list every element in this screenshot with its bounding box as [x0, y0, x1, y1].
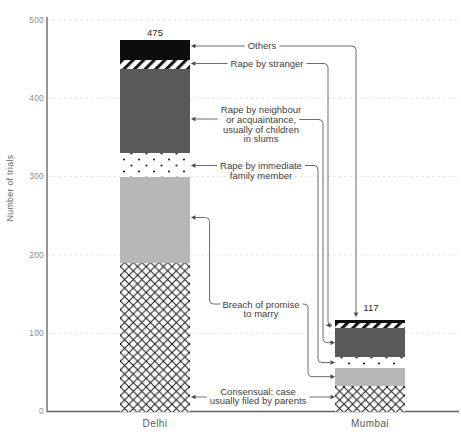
bar-segment-delhi-consensual [120, 263, 190, 412]
bar-segment-mumbai-consensual [335, 386, 405, 412]
delhi-total-label: 475 [147, 27, 163, 38]
bar-segment-mumbai-neighbour [335, 328, 405, 358]
y-tick-300: 300 [29, 171, 44, 181]
leader-line [305, 166, 331, 363]
rape-trials-stacked-bar-chart: 0100200300400500 OthersRape by strangerR… [0, 0, 461, 437]
bar-segment-mumbai-others [335, 320, 405, 323]
y-tick-500: 500 [29, 15, 44, 25]
leader-line [303, 304, 331, 377]
annotation-rape-by-immediate-family-line-2: family member [230, 170, 292, 181]
bar-segment-delhi-stranger [120, 60, 190, 69]
x-category-delhi: Delhi [143, 418, 168, 429]
stacked-bar-chart-svg: 0100200300400500 OthersRape by strangerR… [0, 0, 461, 437]
bar-segment-delhi-immediate-family [120, 153, 190, 176]
y-tick-labels: 0100200300400500 [29, 15, 44, 417]
leader-line [306, 64, 332, 326]
annotation-rape-by-stranger-line-1: Rape by stranger [231, 58, 304, 69]
y-tick-200: 200 [29, 250, 44, 260]
annotation-consensual-line-2: usually filed by parents [210, 395, 307, 406]
mumbai-total-label: 117 [363, 302, 378, 313]
y-tick-0: 0 [39, 406, 44, 416]
annotations: OthersRape by strangerRape by neighbouro… [196, 40, 357, 406]
bar-segment-delhi-neighbour [120, 69, 190, 154]
bars [120, 40, 405, 412]
leader-line [299, 120, 330, 343]
bar-segment-mumbai-stranger [335, 323, 405, 328]
y-tick-400: 400 [29, 93, 44, 103]
x-category-mumbai: Mumbai [351, 418, 389, 429]
bar-segment-delhi-breach-of-promise [120, 177, 190, 263]
y-axis-title: Number of trials [5, 154, 15, 221]
bar-segment-mumbai-breach-of-promise [335, 368, 405, 386]
annotation-breach-of-promise-line-2: to marry [244, 308, 279, 319]
y-tick-100: 100 [29, 328, 44, 338]
leader-line [196, 218, 221, 305]
bar-segment-mumbai-immediate-family [335, 357, 405, 367]
bar-segment-delhi-others [120, 40, 190, 60]
annotation-rape-by-neighbour-line-4: in slums [244, 133, 279, 144]
annotation-others-line-1: Others [248, 40, 277, 51]
